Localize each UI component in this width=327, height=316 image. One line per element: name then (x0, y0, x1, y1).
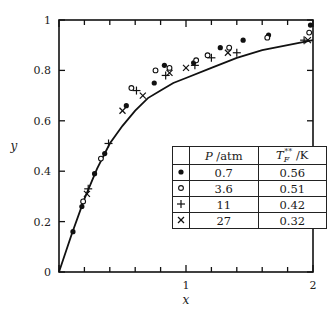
legend-row: 110.42 (173, 197, 327, 213)
legend-temperature: 0.51 (258, 181, 326, 197)
legend-temperature: 0.56 (258, 165, 326, 181)
legend-row: 270.32 (173, 213, 327, 229)
svg-text:0: 0 (44, 266, 51, 279)
cross-icon (173, 213, 190, 229)
legend-pressure: 11 (189, 197, 258, 213)
plus-icon (173, 197, 190, 213)
svg-text:0.6: 0.6 (34, 115, 52, 128)
legend-header-row: P /atm TF** /K (173, 147, 327, 165)
svg-text:2: 2 (310, 279, 317, 292)
legend-temperature: 0.42 (258, 197, 326, 213)
legend-pressure: 27 (189, 213, 258, 229)
legend-header-pressure: P /atm (189, 147, 258, 165)
svg-text:0.4: 0.4 (34, 165, 52, 178)
svg-text:1: 1 (183, 279, 190, 292)
y-axis-label: y (10, 139, 18, 153)
svg-text:0.8: 0.8 (34, 64, 52, 77)
legend-row: 3.60.51 (173, 181, 327, 197)
legend-header-symbol (173, 147, 190, 165)
legend-temperature: 0.32 (258, 213, 326, 229)
svg-text:1: 1 (44, 14, 51, 27)
legend-header-temperature: TF** /K (258, 147, 326, 165)
filled-circle-icon (173, 165, 190, 181)
x-axis-label: x (183, 293, 190, 307)
svg-text:0.2: 0.2 (34, 216, 52, 229)
legend-pressure: 0.7 (189, 165, 258, 181)
open-circle-icon (173, 181, 190, 197)
legend-table: P /atm TF** /K 0.70.563.60.51110.42270.3… (172, 146, 327, 229)
legend-pressure: 3.6 (189, 181, 258, 197)
legend-row: 0.70.56 (173, 165, 327, 181)
